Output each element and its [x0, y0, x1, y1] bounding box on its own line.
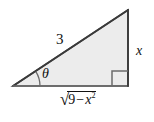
radicand-operator: − — [75, 92, 85, 107]
base-length-label: √9−x2 — [60, 91, 96, 108]
radicand-group: 9−x2 — [67, 91, 96, 107]
right-triangle-figure: 3 x θ √9−x2 — [0, 0, 154, 122]
vertical-leg-label: x — [136, 44, 142, 58]
hypotenuse-length-label: 3 — [56, 32, 64, 47]
radicand-exponent: 2 — [91, 91, 95, 100]
radical-expression: √9−x2 — [60, 91, 96, 108]
theta-angle-label: θ — [42, 67, 49, 81]
